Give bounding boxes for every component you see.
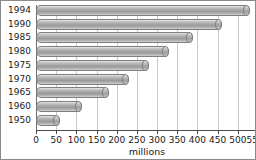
x-tick-0 xyxy=(36,130,37,134)
bar-row-1980 xyxy=(36,46,169,57)
x-tick-350 xyxy=(177,130,178,134)
x-tick-200 xyxy=(117,130,118,134)
bar-1990 xyxy=(36,19,222,30)
y-axis-label-1965: 1965 xyxy=(8,87,31,98)
bar-1950 xyxy=(36,115,60,126)
y-axis-label-1970: 1970 xyxy=(8,74,31,85)
y-axis-label-1980: 1980 xyxy=(8,46,31,57)
bar-row-1975 xyxy=(36,60,149,71)
x-tick-250 xyxy=(137,130,138,134)
y-axis-label-1960: 1960 xyxy=(8,101,31,112)
bar-row-1950 xyxy=(36,115,60,126)
chart-container: 1994 1990 1985 1980 1975 1970 1965 1960 … xyxy=(0,0,256,160)
x-tick-label-400: 400 xyxy=(189,135,206,145)
bar-row-1965 xyxy=(36,87,109,98)
x-tick-label-300: 300 xyxy=(148,135,165,145)
bar-1994 xyxy=(36,5,250,16)
y-axis-label-1994: 1994 xyxy=(8,5,31,16)
x-tick-label-100: 100 xyxy=(68,135,85,145)
bar-1970 xyxy=(36,74,129,85)
x-tick-500 xyxy=(238,130,239,134)
y-axis-label-1950: 1950 xyxy=(8,115,31,126)
x-tick-label-250: 250 xyxy=(128,135,145,145)
bar-1960 xyxy=(36,101,82,112)
y-axis-category-labels: 1994 1990 1985 1980 1975 1970 1965 1960 … xyxy=(1,5,34,130)
x-tick-150 xyxy=(97,130,98,134)
bar-row-1994 xyxy=(36,5,250,16)
bar-1980 xyxy=(36,46,169,57)
bar-row-1985 xyxy=(36,32,193,43)
x-axis-line xyxy=(36,130,256,131)
bar-row-1970 xyxy=(36,74,129,85)
x-tick-label-350: 350 xyxy=(169,135,186,145)
y-axis-label-1985: 1985 xyxy=(8,32,31,43)
plot-area xyxy=(36,5,256,130)
x-tick-300 xyxy=(157,130,158,134)
x-tick-400 xyxy=(197,130,198,134)
x-tick-label-500: 500 xyxy=(229,135,246,145)
x-tick-label-50: 50 xyxy=(50,135,61,145)
y-axis-label-1990: 1990 xyxy=(8,19,31,30)
x-tick-label-550: 550 xyxy=(246,135,256,145)
bar-row-1990 xyxy=(36,19,222,30)
x-tick-label-0: 0 xyxy=(33,135,39,145)
bar-1975 xyxy=(36,60,149,71)
x-tick-100 xyxy=(76,130,77,134)
x-tick-label-450: 450 xyxy=(209,135,226,145)
x-tick-label-200: 200 xyxy=(108,135,125,145)
bar-series xyxy=(36,5,256,130)
bar-1985 xyxy=(36,32,193,43)
x-axis-title: millions xyxy=(36,146,256,157)
bar-1965 xyxy=(36,87,109,98)
y-axis-label-1975: 1975 xyxy=(8,60,31,71)
x-tick-450 xyxy=(218,130,219,134)
x-tick-label-150: 150 xyxy=(88,135,105,145)
x-tick-50 xyxy=(56,130,57,134)
bar-row-1960 xyxy=(36,101,82,112)
